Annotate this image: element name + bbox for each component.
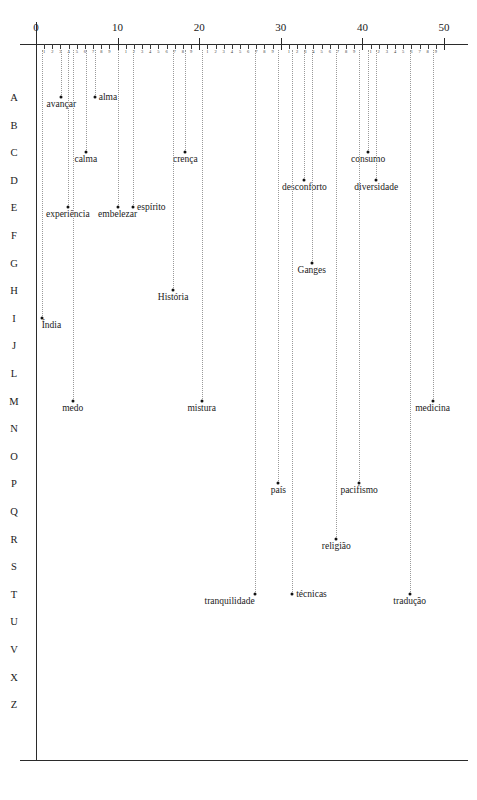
x-tick-minor-label: 1 [288, 49, 290, 54]
data-point-label: tranquilidade [205, 596, 255, 606]
row-label-v: V [0, 644, 28, 655]
drop-line [410, 50, 411, 594]
x-axis-line [20, 44, 468, 45]
x-tick-minor-label: 4 [149, 49, 151, 54]
data-point-label: pacifismo [340, 485, 377, 495]
data-point-label: História [158, 292, 189, 302]
data-point-label: desconforto [282, 182, 327, 192]
data-point[interactable] [132, 206, 135, 209]
drop-line [86, 50, 87, 152]
x-tick-minor-label: 6 [165, 49, 167, 54]
x-tick-minor-label: 9 [435, 49, 437, 54]
x-tick-minor-label: 3 [141, 49, 143, 54]
row-label-l: L [0, 368, 28, 379]
row-label-z: Z [0, 699, 28, 710]
x-tick-label: 40 [357, 22, 368, 33]
drop-line [433, 50, 434, 401]
x-tick-minor-label: 1 [125, 49, 127, 54]
row-label-f: F [0, 230, 28, 241]
x-tick-minor-label: 8 [100, 49, 102, 54]
row-label-a: A [0, 92, 28, 103]
data-point-label: consumo [351, 154, 385, 164]
x-tick-minor-label: 9 [190, 49, 192, 54]
data-point-label: tradução [393, 596, 426, 606]
x-tick-major [362, 38, 363, 50]
drop-line [185, 50, 186, 152]
data-point-label: Índia [42, 320, 62, 330]
x-tick-minor-label: 5 [320, 49, 322, 54]
x-tick-major [36, 38, 37, 50]
data-point-label: diversidade [354, 182, 398, 192]
data-point[interactable] [291, 592, 294, 595]
drop-line [95, 50, 96, 97]
data-point-label: técnicas [296, 589, 327, 599]
row-label-q: Q [0, 506, 28, 517]
x-tick-label: 20 [194, 22, 205, 33]
data-point-label: experiência [46, 209, 90, 219]
drop-line [359, 50, 360, 483]
data-point-label: alma [99, 92, 117, 102]
drop-line [61, 50, 62, 97]
row-label-h: H [0, 285, 28, 296]
x-tick-minor-label: 1 [206, 49, 208, 54]
row-label-s: S [0, 561, 28, 572]
x-tick-minor-label: 8 [345, 49, 347, 54]
x-tick-minor-label: 6 [247, 49, 249, 54]
x-tick-minor-label: 3 [386, 49, 388, 54]
drop-line [118, 50, 119, 207]
drop-line [278, 50, 279, 483]
row-label-p: P [0, 478, 28, 489]
data-point-label: embelezar [98, 209, 137, 219]
y-axis-line [36, 22, 37, 760]
drop-line [336, 50, 337, 539]
drop-line [68, 50, 69, 207]
x-tick-label: 10 [112, 22, 123, 33]
row-label-n: N [0, 423, 28, 434]
drop-line [292, 50, 293, 594]
x-tick-label: 0 [33, 22, 39, 33]
drop-line [368, 50, 369, 152]
row-label-r: R [0, 533, 28, 544]
x-tick-minor-label: 5 [402, 49, 404, 54]
x-tick-minor-label: 2 [378, 49, 380, 54]
data-point[interactable] [93, 96, 96, 99]
bottom-baseline [20, 760, 468, 761]
row-label-e: E [0, 202, 28, 213]
x-tick-minor-label: 8 [263, 49, 265, 54]
x-tick-minor-label: 6 [329, 49, 331, 54]
drop-line [173, 50, 174, 290]
x-tick-major [281, 38, 282, 50]
drop-line [255, 50, 256, 594]
x-tick-major [118, 38, 119, 50]
x-tick-minor-label: 1 [369, 49, 371, 54]
row-label-i: I [0, 312, 28, 323]
drop-line [133, 50, 134, 207]
data-point-label: país [271, 485, 286, 495]
row-label-j: J [0, 340, 28, 351]
drop-line [376, 50, 377, 180]
x-tick-minor-label: 1 [43, 49, 45, 54]
x-tick-major [444, 38, 445, 50]
data-point-label: avançar [47, 99, 77, 109]
x-tick-minor-label: 2 [214, 49, 216, 54]
drop-line [42, 50, 43, 318]
x-tick-minor-label: 8 [182, 49, 184, 54]
x-tick-minor-label: 4 [394, 49, 396, 54]
drop-line [202, 50, 203, 401]
data-point-label: espírito [137, 202, 166, 212]
row-label-c: C [0, 147, 28, 158]
x-tick-label: 50 [439, 22, 450, 33]
x-tick-minor-label: 3 [223, 49, 225, 54]
data-point-label: religião [322, 541, 351, 551]
row-label-o: O [0, 450, 28, 461]
x-tick-minor-label: 2 [51, 49, 53, 54]
row-label-u: U [0, 616, 28, 627]
drop-line [73, 50, 74, 401]
data-point-label: crença [173, 154, 198, 164]
x-tick-minor-label: 5 [157, 49, 159, 54]
data-point-label: calma [74, 154, 97, 164]
data-point-label: Ganges [298, 265, 327, 275]
x-tick-minor-label: 9 [272, 49, 274, 54]
x-tick-minor-label: 5 [76, 49, 78, 54]
x-tick-label: 30 [275, 22, 286, 33]
